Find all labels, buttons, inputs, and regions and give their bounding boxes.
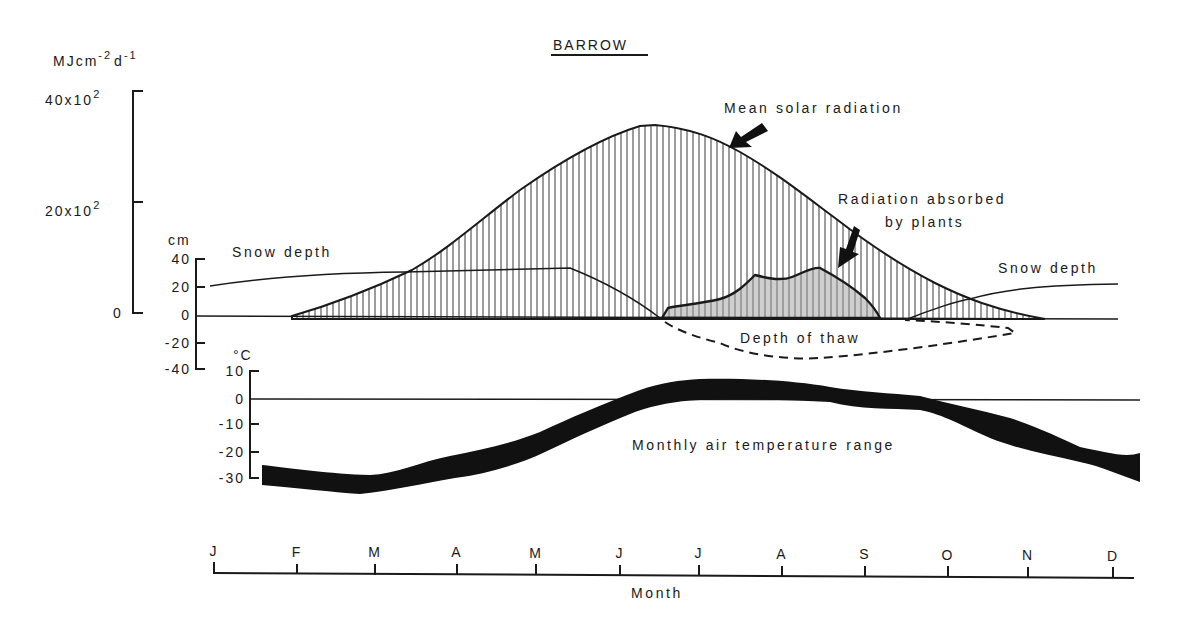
month-tick-jun: J xyxy=(616,545,625,561)
annotation-absorbed-line1: Radiation absorbed xyxy=(838,191,1006,207)
month-tick-feb: F xyxy=(292,544,303,560)
temp-tick-neg10: -10 xyxy=(219,416,245,432)
cm-unit-label: cm xyxy=(168,232,191,248)
annotation-absorbed-line2: by plants xyxy=(885,214,964,230)
radiation-tick-4000: 40x102 xyxy=(45,88,101,108)
month-tick-sep: S xyxy=(859,546,870,562)
cm-tick-40: 40 xyxy=(171,251,191,267)
annotation-snow-left: Snow depth xyxy=(232,244,332,260)
cm-tick-neg40: -40 xyxy=(165,361,191,377)
annotation-mean-solar: Mean solar radiation xyxy=(724,100,903,116)
temperature-axis: °C 10 0 -10 -20 -30 xyxy=(219,347,259,486)
radiation-unit-label: MJcm-2d-1 xyxy=(53,49,138,69)
month-tick-dec: D xyxy=(1107,548,1119,564)
month-tick-oct: O xyxy=(942,547,955,563)
temp-tick-10: 10 xyxy=(225,363,245,379)
arrow-icon-mean-solar xyxy=(729,123,768,148)
month-tick-jan: J xyxy=(210,543,219,559)
temp-tick-neg20: -20 xyxy=(219,444,245,460)
cm-tick-20: 20 xyxy=(171,279,191,295)
month-tick-apr: A xyxy=(451,544,462,560)
cm-tick-0: 0 xyxy=(181,307,191,323)
temp-tick-neg30: -30 xyxy=(219,470,245,486)
temp-unit-label: °C xyxy=(233,347,253,363)
month-tick-jul: J xyxy=(695,545,704,561)
snow-thaw-axis: cm 40 20 0 -20 -40 xyxy=(165,232,205,377)
barrow-chart: BARROW MJcm-2d-1 40x102 20x102 0 cm 40 2… xyxy=(0,0,1177,625)
annotation-temperature: Monthly air temperature range xyxy=(632,437,895,453)
svg-text:MJcm-2d-1: MJcm-2d-1 xyxy=(53,49,138,69)
month-tick-may: M xyxy=(529,545,543,561)
cm-tick-neg20: -20 xyxy=(165,335,191,351)
month-tick-aug: A xyxy=(776,546,787,562)
month-tick-nov: N xyxy=(1022,547,1034,563)
x-axis-title: Month xyxy=(631,585,683,601)
temp-tick-0: 0 xyxy=(235,391,245,407)
radiation-tick-2000: 20x102 xyxy=(45,199,101,219)
radiation-tick-0: 0 xyxy=(113,305,123,321)
annotation-snow-right: Snow depth xyxy=(998,260,1098,276)
month-axis: J F M A M J J A S O N D Month xyxy=(210,543,1135,601)
chart-title: BARROW xyxy=(553,37,628,53)
annotation-depth-of-thaw: Depth of thaw xyxy=(740,330,860,346)
month-tick-mar: M xyxy=(368,544,382,560)
radiation-axis: 40x102 20x102 0 xyxy=(45,88,143,321)
